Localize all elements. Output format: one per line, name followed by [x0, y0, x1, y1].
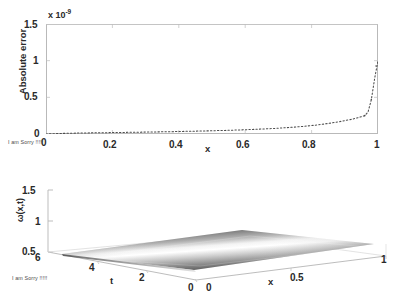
t-tick-0: 0 [188, 282, 193, 293]
x-axis-title: x [205, 143, 210, 154]
watermark-top: I am Sorry !!!!! [8, 139, 43, 145]
error-curve [46, 61, 378, 134]
surface-3d-svg [0, 158, 401, 297]
y-axis-exponent-label: x 10-9 [48, 8, 71, 20]
x3d-axis-title: x [268, 276, 273, 287]
x-tick-0.4: 0.4 [169, 139, 182, 150]
watermark-bottom: I am Sorry !!!!! [12, 275, 47, 281]
x-tick-0.8: 0.8 [302, 139, 315, 150]
surface-plot: ω(x,t) 1.5 1 0.5 [0, 158, 401, 297]
y-tick-1.5: 1.5 [24, 19, 37, 30]
t-axis-title: t [110, 275, 113, 286]
t-tick-2: 2 [139, 272, 144, 283]
exponent-prefix: x 10 [48, 10, 66, 20]
surface-mesh [62, 230, 374, 272]
y-tick-0: 0 [34, 128, 39, 139]
error-curve-svg [46, 24, 378, 134]
t-tick-4: 4 [89, 262, 94, 273]
tick-marks [46, 24, 378, 134]
x3d-tick-0.5: 0.5 [290, 272, 303, 283]
matlab-figure: x 10-9 Absolute error 1.5 1 0.5 0 [0, 0, 401, 297]
y-tick-0.5: 0.5 [24, 91, 37, 102]
x-tick-0.6: 0.6 [236, 139, 249, 150]
t-tick-6: 6 [35, 252, 40, 263]
x3d-tick-0: 0 [206, 282, 211, 293]
curve-markers [364, 65, 377, 116]
absolute-error-plot: x 10-9 Absolute error 1.5 1 0.5 0 [0, 0, 401, 158]
x3d-tick-1: 1 [381, 254, 386, 265]
y-tick-1: 1 [33, 55, 38, 66]
x-tick-0.2: 0.2 [103, 139, 116, 150]
exponent-power: -9 [66, 8, 71, 15]
x-tick-1: 1 [374, 139, 379, 150]
